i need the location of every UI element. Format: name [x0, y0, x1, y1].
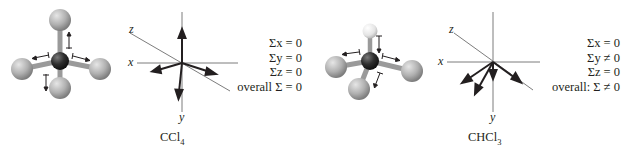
chcl3-bond-vectors [462, 62, 521, 94]
ccl4-vector-sums: Σx = 0 Σy = 0 Σz = 0 overall Σ = 0 [232, 36, 302, 94]
z-axis-label: z [449, 22, 454, 37]
sum-z: Σz = 0 [232, 65, 302, 80]
y-axis-label: y [179, 110, 184, 125]
z-axis-label: z [129, 22, 134, 37]
carbon-atom [361, 52, 379, 70]
sum-overall: overall: Σ ≠ 0 [543, 80, 620, 95]
chlorine-atom-right [401, 60, 423, 82]
ccl4-bond-vectors [152, 29, 216, 99]
hydrogen-atom [363, 24, 378, 39]
carbon-atom [51, 52, 69, 70]
sum-overall: overall Σ = 0 [232, 80, 302, 95]
sum-x: Σx = 0 [232, 36, 302, 51]
chlorine-atom-left [325, 56, 347, 78]
chcl3-vector-diagram: z x y CHCl3 [440, 0, 550, 154]
chlorine-atom-left [11, 58, 33, 80]
y-axis-label: y [490, 110, 495, 125]
ccl4-formula-label: CCl4 [160, 130, 184, 147]
chlorine-atom-top [49, 9, 71, 31]
chcl3-formula-label: CHCl3 [468, 130, 501, 147]
chcl3-vector-sums: Σx = 0 Σy ≠ 0 Σz = 0 overall: Σ ≠ 0 [543, 36, 620, 94]
sum-x: Σx = 0 [543, 36, 620, 51]
chcl3-model [320, 0, 440, 154]
ccl4-molecule-drawing [0, 0, 120, 154]
x-axis-label: x [128, 55, 133, 70]
chlorine-atom-bottom [348, 78, 370, 100]
chlorine-atom-bottom [49, 77, 71, 99]
sum-y: Σy ≠ 0 [543, 51, 620, 66]
chcl3-molecule-drawing [320, 0, 440, 154]
sum-y: Σy = 0 [232, 51, 302, 66]
sum-z: Σz = 0 [543, 65, 620, 80]
ccl4-vector-diagram: z x y CCl4 [120, 0, 240, 154]
chlorine-atom-right [89, 58, 111, 80]
x-axis-label: x [438, 54, 443, 69]
ccl4-model [0, 0, 120, 154]
